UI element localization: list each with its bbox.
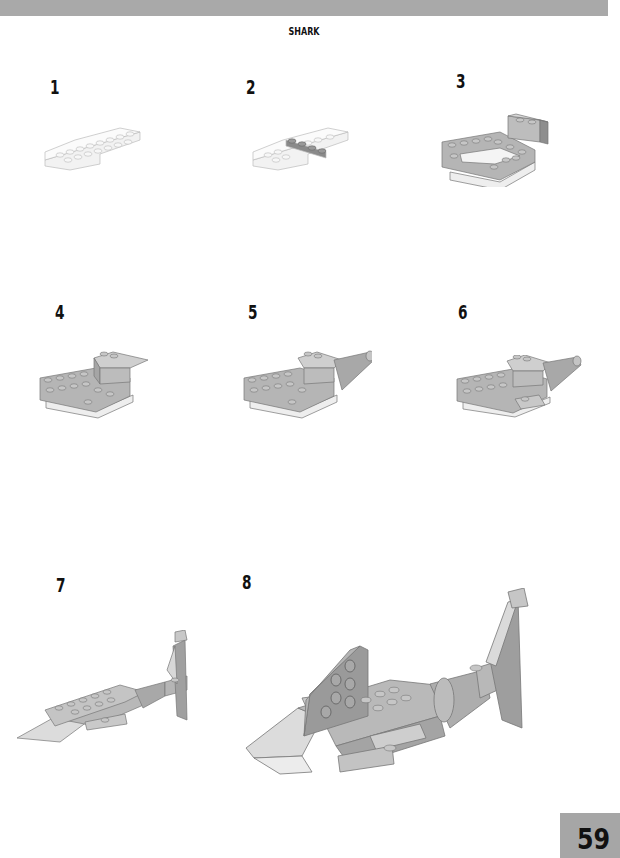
step-8-figure <box>240 588 530 778</box>
header-band <box>0 0 608 16</box>
step-2-figure <box>248 120 358 175</box>
page-title: SHARK <box>61 26 547 37</box>
step-number-6: 6 <box>458 303 468 322</box>
step-number-1: 1 <box>50 78 60 97</box>
step-number-4: 4 <box>55 303 65 322</box>
step-number-5: 5 <box>248 303 258 322</box>
page-number: 59 <box>577 826 610 854</box>
step-number-7: 7 <box>56 576 66 595</box>
step-5-figure <box>242 350 372 420</box>
step-4-figure <box>38 350 158 420</box>
step-3-figure <box>440 112 560 187</box>
step-6-figure <box>455 355 585 420</box>
step-number-2: 2 <box>246 78 256 97</box>
step-7-figure <box>15 630 195 750</box>
step-number-3: 3 <box>456 72 466 91</box>
step-1-figure <box>40 120 150 175</box>
page-number-box: 59 <box>560 813 620 858</box>
